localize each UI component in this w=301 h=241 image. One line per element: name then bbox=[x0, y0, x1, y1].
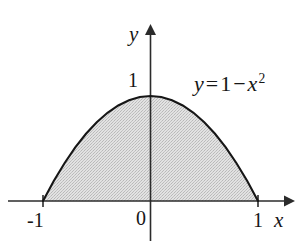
parabola-figure: y x 1 0 -1 1 y=1−x2 bbox=[0, 0, 301, 241]
equation-lhs: y bbox=[194, 71, 204, 96]
x-axis-label: x bbox=[274, 210, 283, 231]
y-tick-label-1: 1 bbox=[128, 70, 138, 90]
equation-constant: 1 bbox=[220, 71, 231, 96]
equation-minus-sign: − bbox=[231, 71, 247, 96]
equation-variable: x bbox=[248, 71, 258, 96]
x-tick-label-1: 1 bbox=[253, 210, 263, 230]
y-axis-label: y bbox=[129, 24, 138, 45]
origin-label: 0 bbox=[136, 208, 146, 228]
x-tick-label-neg-1: -1 bbox=[27, 210, 44, 230]
curve-equation-label: y=1−x2 bbox=[194, 73, 265, 95]
plot-canvas bbox=[0, 0, 301, 241]
y-axis-arrowhead bbox=[145, 24, 156, 35]
equation-equals-sign: = bbox=[204, 71, 220, 96]
equation-exponent: 2 bbox=[258, 71, 265, 86]
x-axis-arrowhead bbox=[284, 196, 295, 207]
